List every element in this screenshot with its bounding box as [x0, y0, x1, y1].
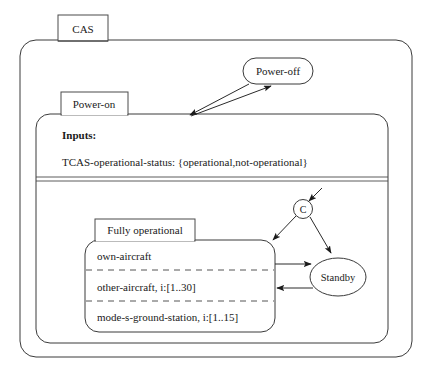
parallel-region-other-aircraft-label: other-aircraft, i:[1..30]: [97, 281, 196, 293]
statechart-diagram-canvas: CAS Power-off Power-on Inputs: TCAS-oper…: [0, 0, 430, 384]
state-cas-label: CAS: [72, 23, 93, 35]
transition-connector-c-to-standby-line: [310, 217, 331, 253]
transition-entry-to-connector-c-line: [309, 188, 322, 201]
parallel-region-own-aircraft-label: own-aircraft: [97, 250, 151, 262]
state-power-on-body: [36, 114, 388, 343]
state-cas[interactable]: [20, 15, 412, 357]
state-cas-body: [20, 40, 412, 357]
state-power-off-label: Power-off: [256, 65, 301, 77]
transition-connector-c-to-fully-operational-line: [273, 216, 296, 240]
state-fully-operational-label: Fully operational: [107, 224, 182, 236]
state-power-on-label: Power-on: [73, 98, 116, 110]
inputs-heading: Inputs:: [62, 129, 96, 141]
transition-connector-c-to-fully-operational[interactable]: [273, 216, 296, 240]
transition-power-off-to-power-on[interactable]: [190, 84, 249, 115]
parallel-region-mode-s-ground-station-label: mode-s-ground-station, i:[1..15]: [97, 311, 238, 323]
diagram-svg: CAS Power-off Power-on Inputs: TCAS-oper…: [0, 0, 430, 384]
state-standby-label: Standby: [321, 272, 356, 283]
transition-power-on-to-power-off-line: [191, 86, 271, 116]
transition-connector-c-to-standby[interactable]: [310, 217, 331, 253]
connector-c-label: C: [300, 204, 307, 215]
transition-power-on-to-power-off[interactable]: [191, 86, 271, 116]
input-entry-tcas-operational-status: TCAS-operational-status: {operational,no…: [62, 156, 308, 168]
transition-power-off-to-power-on-line: [190, 84, 249, 115]
transition-entry-to-connector-c[interactable]: [309, 188, 322, 201]
region-separator: [36, 177, 388, 181]
